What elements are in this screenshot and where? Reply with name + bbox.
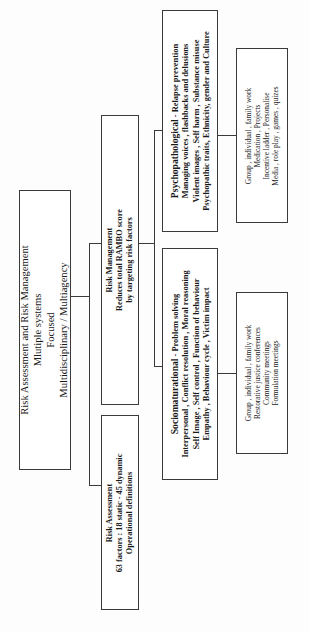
sociomaturational-line-1: Interpersonal , Conflict resolution , Mo… (181, 270, 191, 457)
psychopathological-methods-line-4: Media , role play , games , quizes (271, 86, 280, 185)
node-risk-assessment-and-risk-management[interactable]: Risk Assessment and Risk Management Mlut… (19, 190, 71, 470)
sociomaturational-methods-line-3: Community meetings (262, 325, 271, 421)
root-line-2: Mlutiple systems (32, 245, 45, 415)
psychopathological-heading: Psychopathological (169, 119, 180, 198)
connector-trunk2-to-psychopathological (154, 130, 162, 131)
sociomaturational-line-2: Self Image , Self control , Function of … (191, 270, 201, 457)
psychopathological-methods-line-3: Incentive ladder , Personalise (262, 86, 271, 185)
node-sociomaturational-text: Sociomaturational - Problem solving Inte… (169, 270, 212, 457)
node-sociomaturational-methods-text: Group , individual , family work Restora… (244, 325, 280, 421)
sociomaturational-methods-line-4: Formulation meetings (271, 325, 280, 421)
risk-management-line-1: Risk Management (105, 209, 115, 311)
risk-management-line-2: Reduces total RAMBO score (115, 209, 125, 311)
connector-root-to-trunk (70, 296, 90, 297)
node-sociomaturational[interactable]: Sociomaturational - Problem solving Inte… (162, 248, 218, 480)
sociomaturational-heading: Sociomaturational (169, 359, 180, 435)
node-risk-assessment-text: Risk Assessment 63 factors : 18 static -… (105, 453, 135, 572)
node-psychopathological[interactable]: Psychopathological - Relapse prevention … (162, 10, 218, 232)
node-psychopathological-methods-text: Group , individual , family work Medicat… (244, 86, 280, 185)
node-risk-management[interactable]: Risk Management Reduces total RAMBO scor… (101, 115, 139, 405)
diagram-canvas: Risk Assessment and Risk Management Mlut… (0, 0, 309, 632)
node-psychopathological-methods[interactable]: Group , individual , family work Medicat… (236, 48, 288, 223)
psychopathological-line-1: Managing voices , flashbacks and delusio… (181, 31, 191, 211)
connector-risk-management-to-trunk2 (139, 243, 155, 244)
sociomaturational-methods-line-1: Group , individual , family work (244, 325, 253, 421)
root-line-3: Focused (45, 245, 58, 415)
connector-trunk-to-risk-assessment (89, 485, 101, 486)
connector-psychopathological-to-methods (218, 135, 236, 136)
psychopathological-line-2: Violent images , Self harm , Substance m… (191, 31, 201, 211)
sociomaturational-line-3: Empathy , Behaviour cycle , Victim impac… (201, 270, 211, 457)
connector-trunk-to-risk-management (89, 243, 101, 244)
connector-trunk2-vertical (154, 130, 155, 367)
risk-assessment-line-2: 63 factors : 18 static - 45 dynamic (115, 453, 125, 572)
node-root-text: Risk Assessment and Risk Management Mlut… (19, 245, 71, 415)
node-risk-assessment[interactable]: Risk Assessment 63 factors : 18 static -… (101, 415, 139, 610)
node-psychopathological-text: Psychopathological - Relapse prevention … (169, 31, 212, 211)
connector-trunk-vertical (89, 243, 90, 486)
sociomaturational-heading-line: Sociomaturational - Problem solving (169, 270, 181, 457)
connector-sociomaturational-to-methods (218, 373, 236, 374)
psychopathological-heading-tail: - Relapse prevention (171, 44, 180, 119)
sociomaturational-methods-line-2: Restorative justice conferences (253, 325, 262, 421)
risk-management-line-3: by targeting risk factors (125, 209, 135, 311)
sociomaturational-heading-tail: - Problem solving (171, 294, 180, 359)
node-sociomaturational-methods[interactable]: Group , individual , family work Restora… (236, 292, 288, 454)
root-line-4: Multidisciplinary / Multiagency (58, 245, 71, 415)
root-line-1: Risk Assessment and Risk Management (19, 245, 32, 415)
psychopathological-heading-line: Psychopathological - Relapse prevention (169, 31, 181, 211)
node-risk-management-text: Risk Management Reduces total RAMBO scor… (105, 209, 135, 311)
risk-assessment-line-1: Risk Assessment (105, 453, 115, 572)
risk-assessment-line-3: Operational definitions (125, 453, 135, 572)
psychopathological-methods-line-2: Medication , Projects (253, 86, 262, 185)
psychopathological-line-3: Psychopathic traits, Ethnicity, gender a… (201, 31, 211, 211)
connector-trunk2-to-sociomaturational (154, 366, 162, 367)
psychopathological-methods-line-1: Group , individual , family work (244, 86, 253, 185)
